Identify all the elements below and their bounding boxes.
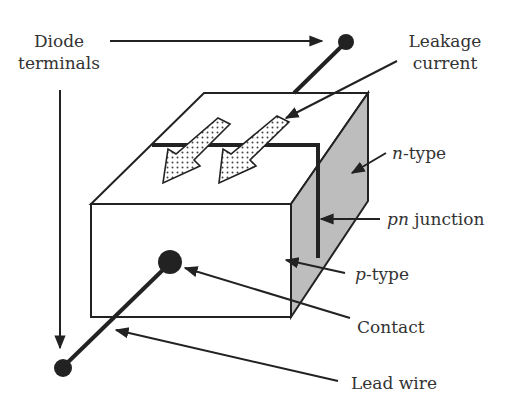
pn-italic: pn [387, 209, 409, 229]
front-face [91, 204, 291, 317]
pn-rest: junction [409, 209, 485, 229]
top-lead-wire [294, 42, 346, 93]
pn-junction-label: pn junction [387, 208, 484, 230]
diode-terminals-label: Diode terminals [14, 30, 104, 74]
top-terminal-dot [338, 34, 354, 50]
lead-wire-pointer [116, 330, 338, 381]
p-type-label: p-type [355, 263, 409, 285]
n-type-italic: n [392, 143, 403, 163]
contact-dot [158, 250, 182, 274]
diode-terminals-line2: terminals [14, 52, 104, 74]
diode-terminals-line1: Diode [14, 30, 104, 52]
p-type-italic: p [355, 264, 366, 284]
n-type-rest: -type [403, 143, 446, 163]
n-type-label: n-type [392, 142, 446, 164]
contact-label: Contact [357, 316, 425, 338]
lead-wire-label: Lead wire [351, 372, 437, 394]
p-type-rest: -type [366, 264, 409, 284]
leakage-line2: current [400, 52, 490, 74]
diode-diagram: Diode terminals Leakage current n-type p… [0, 0, 519, 407]
leakage-line1: Leakage [400, 30, 490, 52]
bottom-terminal-dot [54, 359, 72, 377]
leakage-current-label: Leakage current [400, 30, 490, 74]
